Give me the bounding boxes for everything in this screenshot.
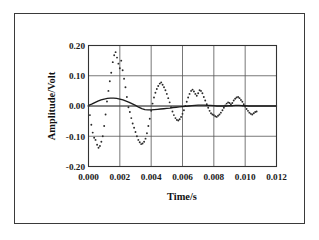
x-tick-label: 0.000 <box>78 172 99 182</box>
data-series-layer <box>88 51 277 148</box>
y-axis-title: Amplitude/Volt <box>46 71 57 140</box>
y-tick-label: -0.10 <box>66 132 86 142</box>
x-tick-label: 0.002 <box>109 172 130 182</box>
x-tick-label: 0.006 <box>172 172 193 182</box>
x-tick-label: 0.010 <box>235 172 256 182</box>
x-tick-label: 0.008 <box>203 172 224 182</box>
y-tick-label: 0.20 <box>69 41 85 51</box>
chart-canvas: 0.0000.0020.0040.0060.0080.0100.012 -0.2… <box>0 0 319 240</box>
x-axis-tick-labels: 0.0000.0020.0040.0060.0080.0100.012 <box>78 172 287 182</box>
x-tick-label: 0.012 <box>266 172 287 182</box>
y-axis-tick-labels: -0.20-0.100.000.100.20 <box>66 41 86 172</box>
y-tick-label: 0.10 <box>69 71 85 81</box>
y-tick-label: 0.00 <box>69 101 85 111</box>
x-tick-label: 0.004 <box>141 172 162 182</box>
series-measured-response <box>88 51 258 148</box>
x-axis-title: Time/s <box>167 191 197 202</box>
y-tick-label: -0.20 <box>66 162 86 172</box>
